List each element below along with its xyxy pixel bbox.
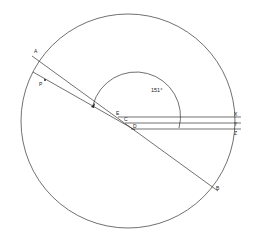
label-y: Y [234,121,238,127]
point-p-dot [44,79,46,81]
label-c: C [124,116,128,122]
label-x: X [234,111,238,117]
label-p: P [39,81,43,87]
label-e: E [116,110,120,116]
angle-label: 151° [151,87,162,93]
angle-arc [93,72,181,128]
label-z: Z [234,130,237,136]
label-b: B [216,185,220,191]
geometry-diagram: A P E C D X Y Z B 151° [0,0,254,241]
label-a: A [34,48,38,54]
line-ab [32,56,218,191]
label-d: D [133,123,137,129]
outer-circle [21,14,235,228]
line-p [33,72,135,130]
